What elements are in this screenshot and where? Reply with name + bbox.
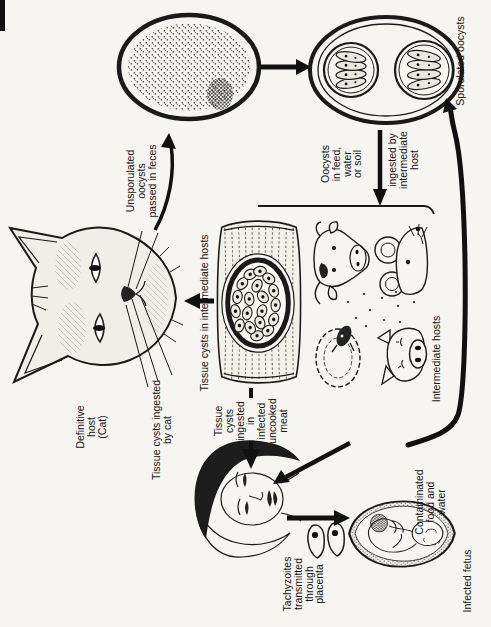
- label-line: host: [409, 125, 420, 195]
- cat-whisker-lines: [126, 231, 172, 387]
- label-line: water: [436, 462, 447, 542]
- arrow-oocyst-sporulation: [260, 59, 311, 75]
- label-line: intermediate: [398, 125, 409, 195]
- label-line: Intermediate hosts: [431, 309, 442, 409]
- label-line: passed in feces: [147, 136, 158, 226]
- label-tachyzoites-placenta: Tachyzoites transmitted through placenta: [282, 547, 325, 621]
- label-line: Sporulated oocysts: [455, 1, 466, 121]
- diagram-stage: Definitive host (Cat) Tissue cysts inges…: [0, 0, 491, 627]
- label-line: oocysts: [136, 136, 147, 226]
- label-line: in feed,: [331, 132, 342, 196]
- label-line: Infected fetus: [462, 540, 473, 622]
- arrow-oocysts-ingested-by-host: [373, 130, 387, 206]
- label-line: (Cat): [97, 382, 108, 472]
- label-contaminated-food: Contaminated food and water: [414, 462, 446, 542]
- label-tissue-cysts-in-hosts: Tissue cysts in intermediate hosts: [199, 208, 210, 418]
- label-line: food and: [425, 462, 436, 542]
- label-tissue-cysts-ingested-by-cat: Tissue cysts ingested by cat: [151, 375, 173, 485]
- label-unsporulated-oocysts: Unsporulated oocysts passed in feces: [125, 136, 157, 226]
- arrow-human-to-fetus: [287, 510, 350, 526]
- label-sporulated-oocysts: Sporulated oocysts: [455, 1, 466, 121]
- label-definitive-host: Definitive host (Cat): [75, 382, 107, 472]
- label-line: Tissue cysts in intermediate hosts: [199, 208, 210, 418]
- label-line: by cat: [162, 375, 173, 485]
- label-oocysts-in-feed: Oocysts in feed, water or soil: [320, 132, 363, 196]
- label-infected-fetus: Infected fetus: [462, 540, 473, 622]
- label-line: host: [86, 382, 97, 472]
- label-line: meat: [278, 391, 289, 451]
- bracket-intermediate-hosts: [258, 206, 434, 214]
- label-line: or soil: [352, 132, 363, 196]
- label-ingested-by-intermediate-host: ingested by intermediate host: [387, 125, 419, 195]
- label-intermediate-hosts: Intermediate hosts: [431, 309, 442, 409]
- label-line: placenta: [314, 547, 325, 621]
- label-line: cysts: [224, 391, 235, 451]
- figure-page: Definitive host (Cat) Tissue cysts inges…: [0, 0, 491, 627]
- arrow-feces-to-oocyst: [155, 133, 176, 230]
- label-tissue-cysts-uncooked-meat: Tissue cysts ingested in infected uncook…: [213, 391, 289, 451]
- scan-artifact: [0, 0, 5, 31]
- label-line: transmitted: [293, 547, 304, 621]
